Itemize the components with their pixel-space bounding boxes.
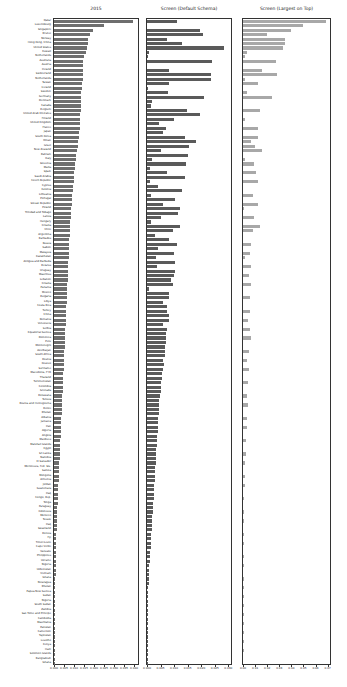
y-category-label: Gabon <box>0 246 51 249</box>
bar <box>147 305 167 308</box>
bar <box>243 359 247 362</box>
bar <box>243 439 246 442</box>
bar <box>147 582 149 585</box>
bar <box>243 519 244 522</box>
bar <box>243 55 245 58</box>
chart-panel-1 <box>53 18 139 665</box>
bar <box>54 546 56 549</box>
bar <box>147 341 166 344</box>
y-category-label: Turkey <box>0 309 51 312</box>
y-category-label: Sri Lanka <box>0 452 51 455</box>
bar <box>54 551 56 554</box>
bar <box>147 216 161 219</box>
y-category-label: Timor-Leste <box>0 541 51 544</box>
y-category-label: Germany <box>0 95 51 98</box>
bar <box>243 118 245 121</box>
x-tick-label: 0.02 <box>264 666 270 670</box>
y-category-label: Zambia <box>0 608 51 611</box>
bar <box>54 399 62 402</box>
bar <box>54 109 81 112</box>
bar <box>54 586 55 589</box>
y-category-label: Bosnia and Herzegovina <box>0 402 51 405</box>
bar <box>147 20 177 23</box>
x-tick-label: 0.020 <box>90 666 98 670</box>
bar <box>243 319 248 322</box>
bar <box>147 600 148 603</box>
bar <box>147 46 224 49</box>
bar <box>54 488 58 491</box>
panel-title: 2015 <box>53 6 139 11</box>
bar <box>243 136 258 139</box>
bar <box>147 82 169 85</box>
bar <box>147 270 175 273</box>
bar <box>54 439 60 442</box>
bar <box>243 42 285 45</box>
bar <box>54 381 63 384</box>
bar <box>54 220 70 223</box>
bar <box>54 198 72 201</box>
bar <box>54 390 63 393</box>
bar <box>147 622 148 625</box>
bar <box>54 149 77 152</box>
bar <box>243 243 251 246</box>
y-category-label: Argentina <box>0 233 51 236</box>
y-category-label: South Korea <box>0 135 51 138</box>
bar <box>147 542 151 545</box>
bar <box>147 109 187 112</box>
bar <box>243 640 244 643</box>
y-category-label: Congo, Rep. <box>0 496 51 499</box>
y-category-label: Tunisia <box>0 398 51 401</box>
y-category-label: Brunei <box>0 32 51 35</box>
bar <box>54 145 78 148</box>
bar <box>147 560 150 563</box>
bar <box>54 604 55 607</box>
bar <box>243 394 247 397</box>
y-category-label: Bulgaria <box>0 295 51 298</box>
bar <box>147 564 149 567</box>
bar <box>54 345 65 348</box>
bar <box>243 256 245 259</box>
bar <box>54 216 71 219</box>
bar <box>147 653 148 656</box>
x-tick-label: 0.04 <box>288 666 294 670</box>
bar <box>147 551 150 554</box>
bar <box>147 519 152 522</box>
bar <box>147 493 154 496</box>
bar <box>54 368 64 371</box>
x-tick-label: 0.020 <box>197 666 205 670</box>
y-category-label: Mauritania <box>0 621 51 624</box>
bar <box>243 180 258 183</box>
bar <box>243 381 248 384</box>
x-tick-label: 0.010 <box>170 666 178 670</box>
x-tick-label: 0.015 <box>80 666 88 670</box>
bar <box>243 631 244 634</box>
bar <box>147 78 211 81</box>
bar <box>147 403 159 406</box>
bar <box>243 533 244 536</box>
y-category-label: Cape Verde <box>0 545 51 548</box>
y-category-label: Jamaica <box>0 420 51 423</box>
bar <box>147 399 159 402</box>
bar <box>243 171 256 174</box>
bar <box>54 493 58 496</box>
y-category-label: Algeria <box>0 429 51 432</box>
bar <box>243 452 246 455</box>
bar <box>54 162 75 165</box>
bar <box>243 296 250 299</box>
bar <box>243 555 244 558</box>
bar <box>54 524 57 527</box>
y-category-label: Philippines <box>0 554 51 557</box>
y-category-label: Kuwait <box>0 50 51 53</box>
y-category-label: Belize <box>0 407 51 410</box>
bar <box>54 38 88 41</box>
bar <box>147 145 189 148</box>
bar <box>54 64 83 67</box>
bar <box>54 452 60 455</box>
y-category-label: China <box>0 313 51 316</box>
bar <box>54 417 61 420</box>
bar <box>147 203 163 206</box>
y-category-label: Romania <box>0 318 51 321</box>
x-tick-label: 0.05 <box>300 666 306 670</box>
y-category-label: South Sudan <box>0 603 51 606</box>
y-category-label: Hungary <box>0 220 51 223</box>
